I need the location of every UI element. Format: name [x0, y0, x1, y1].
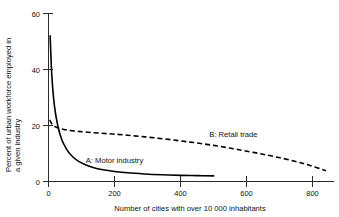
line-chart: 60 40 20 0 0 200 400 600 800 A: Motor in… [0, 0, 339, 217]
x-axis-title: Number of cities with over 10 000 inhabi… [114, 204, 266, 213]
y-tick-label-40: 40 [32, 66, 40, 75]
y-axis-title-line1: Percent of urban workforce employed in [4, 38, 13, 172]
x-tick-label-400: 400 [174, 189, 187, 198]
series-annotation-motor-industry: A: Motor industry [86, 156, 144, 165]
x-tick-label-800: 800 [306, 189, 319, 198]
y-tick-label-20: 20 [32, 122, 40, 131]
series-annotation-retail-trade: B: Retail trade [209, 130, 257, 139]
chart-figure: 60 40 20 0 0 200 400 600 800 A: Motor in… [0, 0, 339, 217]
x-tick-label-0: 0 [46, 189, 50, 198]
y-tick-label-0: 0 [36, 178, 40, 187]
y-tick-label-60: 60 [32, 10, 40, 19]
x-tick-label-600: 600 [240, 189, 253, 198]
x-tick-label-200: 200 [108, 189, 121, 198]
y-axis-title-line2: a given industry [13, 119, 22, 172]
series-line-motor-industry [50, 36, 213, 176]
